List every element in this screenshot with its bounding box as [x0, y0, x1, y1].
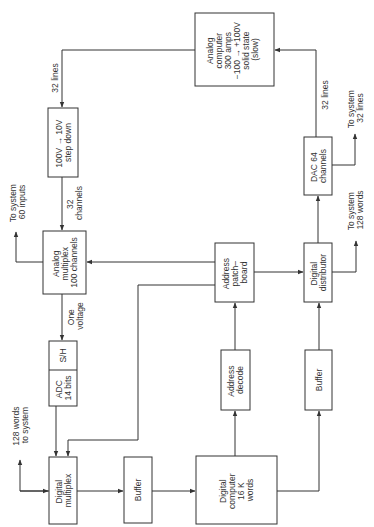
label-step-down-2: step down	[63, 123, 73, 162]
svg-text:S/H: S/H	[58, 348, 68, 362]
svg-text:DAC 64 channels: DAC 64 channels	[309, 149, 328, 183]
block-dac: DAC 64 channels	[304, 137, 332, 195]
label-to-system-32: To system 32 lines	[346, 88, 365, 129]
svg-text:100V → 10V step down: 100V → 10V step down	[54, 117, 73, 168]
label-patchboard-3: board	[239, 261, 249, 283]
block-adc-sh: S/H ADC 14 bits	[49, 341, 77, 406]
label-to-system-60: To system 60 inputs	[8, 182, 27, 223]
label-sh: S/H	[58, 348, 68, 362]
label-dac-2: channels	[318, 149, 328, 183]
block-digital-multiplex: Digital multiplex	[49, 457, 77, 524]
label-32-lines-top: 32 lines	[50, 63, 60, 92]
svg-text:Buffer: Buffer	[133, 479, 143, 502]
wire-patchboard-to-digital-mux	[68, 285, 215, 456]
label-analog-mux-3: 100 channels	[69, 237, 79, 288]
label-32-lines-right: 32 lines	[320, 80, 330, 109]
svg-text:Buffer: Buffer	[314, 369, 324, 392]
wire-digital-mux-to-system	[20, 460, 49, 491]
block-step-down: 100V → 10V step down	[48, 108, 78, 177]
block-analog-multiplex: Analog multiplex 100 channels	[43, 231, 86, 294]
block-address-decode: Address decode	[221, 350, 250, 410]
label-buffer-right: Buffer	[314, 369, 324, 392]
svg-text:Digital multiplex: Digital multiplex	[54, 473, 73, 507]
label-128-words-to-system: 128 words to system	[11, 404, 30, 446]
block-diagram: Analog computer 300 amps −100 → +100V so…	[0, 0, 374, 527]
wire-analog-mux-to-system	[16, 232, 43, 262]
label-address-decode-2: decode	[235, 366, 245, 394]
wire-analog-computer-to-stepdown	[62, 50, 195, 107]
label-digital-mux-2: multiplex	[63, 473, 73, 507]
label-computer-4: words	[245, 479, 255, 503]
label-32-channels: 32 channels	[65, 186, 84, 220]
block-analog-computer: Analog computer 300 amps −100 → +100V so…	[195, 13, 274, 86]
wire-distributor-to-system	[332, 241, 356, 272]
wire-computer-to-buffer-right	[277, 411, 319, 491]
block-address-patchboard: Address patch– board	[215, 243, 254, 302]
block-digital-computer: Digital computer 16 K words	[196, 456, 277, 524]
label-buffer-left: Buffer	[133, 479, 143, 502]
label-analog-computer-6: (slow)	[250, 38, 260, 61]
block-digital-distributor: Digital distributor	[304, 243, 332, 302]
label-adc-2: 14 bits	[63, 375, 73, 400]
label-distributor-2: distributor	[318, 254, 328, 291]
label-to-system-128: To system 128 words	[346, 190, 365, 231]
svg-text:ADC 14 bits: ADC 14 bits	[54, 375, 73, 400]
svg-text:Address decode: Address decode	[226, 363, 245, 397]
block-buffer-left: Buffer	[124, 457, 152, 523]
wire-dac-to-system	[332, 134, 355, 165]
wire-dac-to-analog-computer	[275, 50, 316, 137]
block-buffer-right: Buffer	[305, 350, 332, 410]
label-one-voltage: One voltage	[66, 302, 85, 330]
